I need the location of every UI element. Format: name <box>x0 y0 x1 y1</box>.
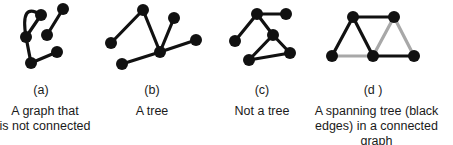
graph-node <box>326 50 338 62</box>
graph-panel-c <box>229 8 296 66</box>
caption-c-line1: Not a tree <box>225 104 299 119</box>
graph-node <box>280 8 292 20</box>
graph-panel-d <box>326 11 420 62</box>
graph-node <box>367 50 379 62</box>
graph-node <box>116 58 128 70</box>
panel-label-b: (b) <box>137 83 167 98</box>
panel-label-d: (d ) <box>353 83 393 98</box>
graph-edge <box>353 17 373 56</box>
caption-d-line2: edges) in a connected graph <box>300 119 453 145</box>
caption-d: A spanning tree (black edges) in a conne… <box>300 104 453 145</box>
graph-node <box>41 29 53 41</box>
graph-node <box>154 46 166 58</box>
graph-edge <box>143 10 160 52</box>
graph-node <box>57 3 69 15</box>
graph-node <box>168 12 180 24</box>
caption-b-line1: A tree <box>112 104 192 119</box>
graph-node <box>388 11 400 23</box>
graph-node <box>243 54 255 66</box>
panel-label-a: (a) <box>26 83 56 98</box>
graph-node <box>105 37 117 49</box>
graph-edge <box>332 17 353 56</box>
caption-a-line2: is not connected <box>0 119 94 134</box>
graph-panel-a <box>20 3 69 69</box>
caption-a-line1: A graph that <box>0 104 94 119</box>
graph-node <box>251 8 263 20</box>
graph-edge <box>394 17 414 56</box>
graph-node <box>190 34 202 46</box>
graph-node <box>25 57 37 69</box>
caption-d-line1: A spanning tree (black <box>300 104 453 119</box>
graph-node <box>408 50 420 62</box>
panel-label-c: (c) <box>247 83 277 98</box>
graph-node <box>229 35 241 47</box>
graph-node <box>347 11 359 23</box>
graph-edge <box>373 17 394 56</box>
graph-node <box>20 31 32 43</box>
graph-node <box>267 29 279 41</box>
graph-node <box>35 9 47 21</box>
caption-a: A graph that is not connected <box>0 104 94 134</box>
graph-panel-b <box>105 4 202 70</box>
graph-node <box>51 46 63 58</box>
caption-c: Not a tree <box>225 104 299 119</box>
graph-node <box>284 47 296 59</box>
graph-node <box>137 4 149 16</box>
graph-edge <box>111 10 143 43</box>
caption-b: A tree <box>112 104 192 119</box>
